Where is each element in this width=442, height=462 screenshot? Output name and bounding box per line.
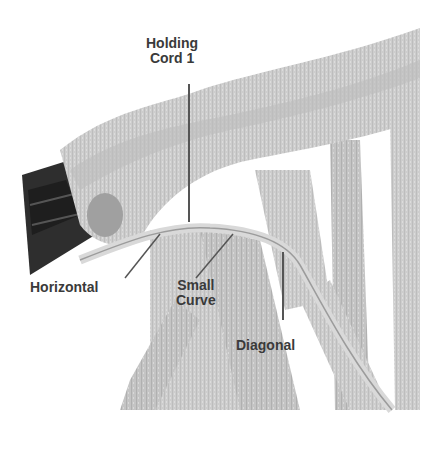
label-holding-cord-line1: Holding xyxy=(146,36,198,51)
label-holding-cord-line2: Cord 1 xyxy=(146,51,198,66)
label-diagonal: Diagonal xyxy=(236,338,295,353)
label-small-curve-line1: Small xyxy=(176,278,216,293)
holding-cord-bundle xyxy=(60,28,420,245)
macrame-diagram: Holding Cord 1 Horizontal Small Curve Di… xyxy=(0,0,442,462)
label-horizontal: Horizontal xyxy=(30,280,98,295)
label-holding-cord: Holding Cord 1 xyxy=(146,36,198,66)
rope-illustration xyxy=(0,0,442,462)
label-small-curve: Small Curve xyxy=(176,278,216,308)
label-small-curve-line2: Curve xyxy=(176,293,216,308)
